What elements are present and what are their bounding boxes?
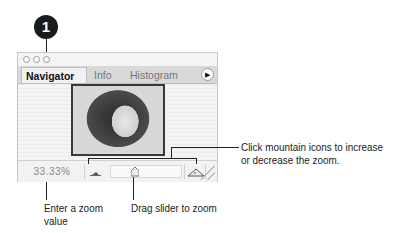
callout-badge: 1 <box>34 15 58 39</box>
zoom-out-button[interactable] <box>84 164 106 179</box>
tab-histogram[interactable]: Histogram <box>126 67 186 83</box>
panel-titlebar <box>18 53 217 67</box>
portrait-thumbnail[interactable] <box>71 84 165 156</box>
close-button[interactable] <box>23 56 30 63</box>
mountain-bracket-right <box>196 158 197 164</box>
slider-annotation: Drag slider to zoom <box>131 202 217 215</box>
resize-grip[interactable] <box>201 166 215 180</box>
zoom-slider-track[interactable] <box>110 165 182 178</box>
zoom-value-annotation-line2: value <box>44 215 68 228</box>
small-mountain-icon <box>85 164 107 179</box>
navigator-preview-area <box>18 84 217 160</box>
zoom-window-button[interactable] <box>43 56 50 63</box>
tab-navigator[interactable]: Navigator <box>21 67 87 83</box>
panel-tab-row: Navigator Info Histogram ▶ <box>18 66 217 84</box>
triangle-right-icon: ▶ <box>205 71 210 78</box>
mountain-bracket-riser <box>171 147 172 158</box>
mountain-icons-annotation-line2: or decrease the zoom. <box>241 154 340 167</box>
slider-thumb-icon[interactable] <box>131 167 139 177</box>
navigator-panel: Navigator Info Histogram ▶ 33.33% <box>17 52 218 182</box>
mountain-bracket-line <box>88 158 197 159</box>
zoom-controls-bar: 33.33% <box>18 160 217 182</box>
panel-menu-button[interactable]: ▶ <box>201 68 214 81</box>
zoom-value-leader-line <box>46 182 47 200</box>
view-box[interactable] <box>73 86 165 156</box>
zoom-value-field[interactable]: 33.33% <box>21 164 83 179</box>
slider-leader-line <box>133 177 134 200</box>
zoom-value-annotation-line1: Enter a zoom <box>44 202 103 215</box>
mountain-bracket-left <box>88 158 89 164</box>
tab-info[interactable]: Info <box>90 67 124 83</box>
mountain-leader-line <box>171 147 239 148</box>
mountain-icons-annotation-line1: Click mountain icons to increase <box>241 141 383 154</box>
minimize-button[interactable] <box>33 56 40 63</box>
